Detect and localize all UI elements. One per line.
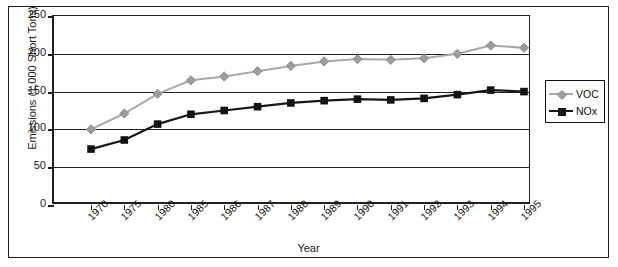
legend-marker-nox-square-icon <box>549 105 573 117</box>
data-point-voc <box>286 61 295 70</box>
data-point-nox <box>520 88 528 96</box>
legend-item-nox[interactable]: NOx <box>549 102 601 119</box>
data-point-voc <box>153 89 162 98</box>
data-point-nox <box>154 120 162 128</box>
data-point-voc <box>86 125 95 134</box>
y-axis-title: Emissions (1,000 Short Tons) <box>26 0 38 178</box>
plot-inner: 1970197519801985198619871988198919901991… <box>54 16 529 202</box>
data-point-voc <box>253 67 262 76</box>
series-line-voc <box>91 46 524 130</box>
y-axis-tick-label: 0 <box>40 198 46 209</box>
data-point-nox <box>420 95 428 103</box>
data-point-nox <box>87 145 95 153</box>
data-point-voc <box>419 54 428 63</box>
data-point-voc <box>220 72 229 81</box>
data-point-voc <box>486 41 495 50</box>
data-point-nox <box>187 110 195 118</box>
plot-area: 1970197519801985198619871988198919901991… <box>52 15 530 204</box>
series-layer <box>54 16 532 205</box>
data-point-nox <box>387 96 395 104</box>
legend-item-voc[interactable]: VOC <box>549 85 601 102</box>
data-point-voc <box>519 43 528 52</box>
series-line-nox <box>91 90 524 149</box>
y-axis-tick-labels: 050100150200250 <box>0 0 46 267</box>
data-point-voc <box>386 55 395 64</box>
data-point-nox <box>454 91 462 99</box>
chart-legend: VOC NOx <box>545 80 605 123</box>
data-point-nox <box>354 95 362 103</box>
data-point-nox <box>254 103 262 111</box>
data-point-voc <box>186 76 195 85</box>
data-point-nox <box>121 136 129 144</box>
emissions-chart-figure: 050100150200250 Emissions (1,000 Short T… <box>0 0 618 267</box>
x-axis-ticks: 1970197519801985198619871988198919901991… <box>54 205 529 265</box>
data-point-nox <box>220 107 228 115</box>
legend-marker-voc-diamond-icon <box>549 88 573 100</box>
data-point-voc <box>453 49 462 58</box>
data-point-nox <box>487 86 495 94</box>
data-point-voc <box>353 54 362 63</box>
data-point-voc <box>320 57 329 66</box>
data-point-nox <box>320 97 328 105</box>
data-point-nox <box>287 99 295 107</box>
legend-label-nox: NOx <box>573 105 597 117</box>
data-point-voc <box>120 109 129 118</box>
legend-label-voc: VOC <box>573 88 599 100</box>
